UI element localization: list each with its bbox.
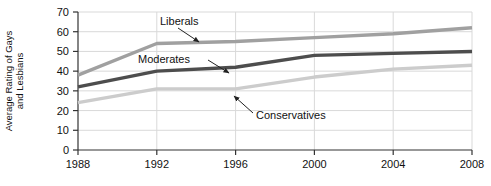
- y-tick-label: 0: [63, 144, 69, 156]
- y-tick-group: 010203040506070: [57, 6, 78, 156]
- y-tick-label: 40: [57, 65, 69, 77]
- y-tick-label: 10: [57, 124, 69, 136]
- x-tick-label: 2004: [381, 158, 405, 170]
- line-chart: 010203040506070 198819921996200020042008…: [0, 0, 491, 186]
- y-tick-label: 60: [57, 26, 69, 38]
- series-label-moderates: Moderates: [138, 53, 190, 65]
- y-tick-label: 30: [57, 85, 69, 97]
- y-tick-label: 20: [57, 105, 69, 117]
- y-tick-label: 70: [57, 6, 69, 18]
- x-tick-group: 198819921996200020042008: [66, 150, 484, 170]
- x-tick-label: 1996: [223, 158, 247, 170]
- y-tick-label: 50: [57, 45, 69, 57]
- y-axis-title-line1: Average Rating of Gays: [3, 30, 14, 131]
- x-tick-label: 2000: [302, 158, 326, 170]
- x-tick-label: 1988: [66, 158, 90, 170]
- x-tick-label: 2008: [460, 158, 484, 170]
- series-label-liberals: Liberals: [160, 15, 199, 27]
- x-tick-label: 1992: [145, 158, 169, 170]
- y-axis-title-line2: and Lesbians: [14, 52, 25, 109]
- chart-container: 010203040506070 198819921996200020042008…: [0, 0, 491, 186]
- series-label-conservatives: Conservatives: [256, 109, 326, 121]
